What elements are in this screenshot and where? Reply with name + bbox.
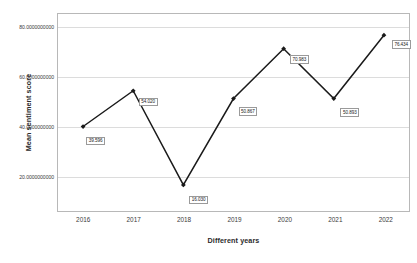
y-tick-label: 80.0000000000: [19, 24, 58, 30]
data-point-value-label: 16.030: [189, 196, 208, 205]
series-polyline: [83, 35, 384, 185]
x-tick-label: 2018: [177, 216, 191, 223]
data-point-value-label: 50.893: [340, 108, 359, 117]
x-tick-label: 2020: [278, 216, 292, 223]
y-axis-title: Mean sentiment score: [24, 33, 33, 193]
x-tick-label: 2022: [379, 216, 393, 223]
y-tick-label: 20.0000000000: [19, 174, 58, 180]
data-point-value-label: 50.867: [239, 107, 258, 116]
data-point-value-label: 39.596: [86, 137, 105, 146]
x-axis-title: Different years: [57, 236, 410, 245]
x-tick-label: 2017: [127, 216, 141, 223]
y-tick-label: 60.0000000000: [19, 74, 58, 80]
x-tick-label: 2021: [328, 216, 342, 223]
data-point-value-label: 70.983: [290, 55, 309, 64]
y-tick-label: 40.0000000000: [19, 124, 58, 130]
data-point-value-label: 76.434: [392, 40, 411, 49]
data-point-value-label: 54.020: [139, 98, 158, 107]
x-tick-label: 2019: [227, 216, 241, 223]
plot-area: 80.000000000060.000000000040.00000000002…: [57, 13, 410, 212]
x-tick-label: 2016: [76, 216, 90, 223]
chart-figure: Mean sentiment score 80.000000000060.000…: [0, 0, 417, 263]
